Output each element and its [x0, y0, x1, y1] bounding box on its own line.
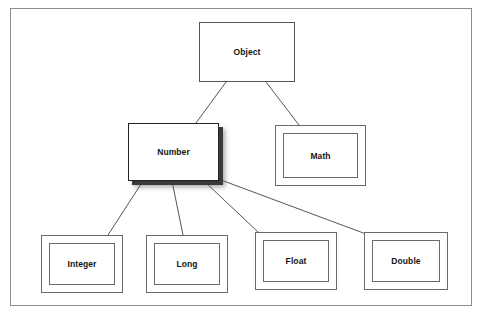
node-label-double: Double	[391, 256, 420, 266]
diagram-canvas: ObjectNumberMathIntegerLongFloatDouble	[0, 0, 483, 316]
node-integer[interactable]: Integer	[41, 235, 123, 293]
node-label-float: Float	[286, 256, 307, 266]
node-label-math: Math	[310, 151, 330, 161]
node-label-object: Object	[233, 47, 260, 57]
node-inner-frame-long: Long	[154, 243, 220, 285]
node-float[interactable]: Float	[255, 232, 337, 290]
node-inner-frame-double: Double	[372, 240, 440, 282]
connector-number-integer	[108, 181, 143, 235]
node-long[interactable]: Long	[146, 235, 228, 293]
node-inner-frame-float: Float	[263, 240, 329, 282]
node-object[interactable]: Object	[199, 22, 295, 82]
connector-object-math	[266, 82, 299, 125]
node-inner-frame-math: Math	[283, 133, 358, 178]
node-label-number: Number	[157, 147, 190, 157]
node-inner-frame-integer: Integer	[49, 243, 115, 285]
node-label-long: Long	[176, 259, 197, 269]
node-double[interactable]: Double	[364, 232, 448, 290]
connector-number-long	[172, 181, 183, 235]
node-label-integer: Integer	[67, 259, 96, 269]
node-math[interactable]: Math	[275, 125, 366, 186]
connector-number-float	[204, 181, 258, 232]
node-number[interactable]: Number	[128, 123, 219, 181]
connector-number-double	[221, 180, 366, 234]
connector-object-number	[196, 82, 226, 123]
